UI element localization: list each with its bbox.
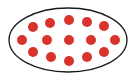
red-dot	[82, 17, 92, 27]
red-dot	[46, 52, 56, 62]
red-dot	[82, 52, 92, 62]
red-dot	[64, 35, 74, 45]
red-dot	[86, 35, 96, 45]
red-dot	[42, 35, 52, 45]
red-dot	[64, 56, 74, 66]
red-dot	[17, 35, 27, 45]
red-dot	[28, 22, 38, 32]
red-dot	[45, 18, 55, 28]
red-dot	[110, 35, 120, 45]
dot-diagram	[0, 0, 134, 79]
red-dot	[64, 15, 74, 25]
red-dot	[99, 47, 109, 57]
red-dot	[99, 21, 109, 31]
red-dot	[28, 47, 38, 57]
diagram-svg	[0, 0, 134, 79]
